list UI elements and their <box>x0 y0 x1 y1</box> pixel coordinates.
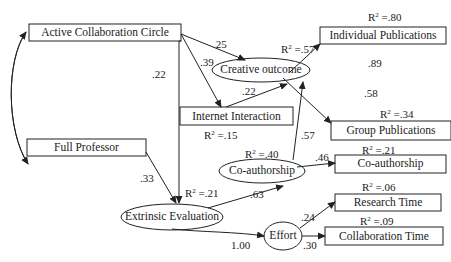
coef-coauth-observed: .46 <box>315 152 329 163</box>
node-label-coauthorship-observed: Co-authorship <box>335 158 446 170</box>
r2-group-publications: R2 =.34 <box>380 109 414 120</box>
node-label-research-time: Research Time <box>335 197 441 209</box>
node-label-individual-publications: Individual Publications <box>320 30 446 42</box>
node-label-active-collaboration-circle: Active Collaboration Circle <box>29 27 181 39</box>
r2-internet-interaction: R2 =.15 <box>204 130 238 141</box>
r2-individual-publications: R2 =.80 <box>368 12 402 23</box>
node-label-coauthorship-latent: Co-authorship <box>219 165 305 177</box>
coef-effort-research: .24 <box>301 212 315 223</box>
coef-creative-group: .58 <box>364 88 378 99</box>
edge-coauth-creative <box>293 82 303 160</box>
r2-extrinsic-evaluation: R2 =.21 <box>185 188 219 199</box>
coef-acc-extrinsic: .22 <box>152 69 166 80</box>
edge-internet-creative <box>226 84 287 107</box>
node-label-effort: Effort <box>264 230 302 242</box>
edge-extrinsic-coauth <box>208 186 283 208</box>
coef-acc-internet: .39 <box>200 57 214 68</box>
coef-coauth-creative: .57 <box>301 130 315 141</box>
r2-coauthorship-latent: R2 =.40 <box>245 149 279 160</box>
coef-fullprof-extrinsic: .33 <box>140 173 154 184</box>
node-label-internet-interaction: Internet Interaction <box>180 111 293 123</box>
node-label-group-publications: Group Publications <box>331 125 451 137</box>
coef-extrinsic-coauth: .63 <box>250 189 264 200</box>
node-label-full-professor: Full Professor <box>27 142 146 154</box>
coef-creative-individual: .89 <box>368 58 382 69</box>
coef-extrinsic-effort: 1.00 <box>231 240 250 251</box>
r2-research-time: R2 =.06 <box>362 182 396 193</box>
coef-internet-creative: .22 <box>242 86 256 97</box>
covariance-arrow <box>11 32 28 164</box>
edge-extrinsic-effort <box>172 229 264 236</box>
node-label-creative-outcome: Creative outcome <box>212 64 310 76</box>
r2-coauthorship-observed: R2 =.21 <box>362 145 396 156</box>
coef-effort-collaboration: .30 <box>303 240 317 251</box>
node-label-collaboration-time: Collaboration Time <box>325 231 443 243</box>
r2-creative-outcome: R2 =.57 <box>281 44 315 55</box>
coef-acc-creative: .25 <box>213 39 227 50</box>
r2-collaboration-time: R2 =.09 <box>360 216 394 227</box>
node-label-extrinsic-evaluation: Extrinsic Evaluation <box>121 211 223 223</box>
